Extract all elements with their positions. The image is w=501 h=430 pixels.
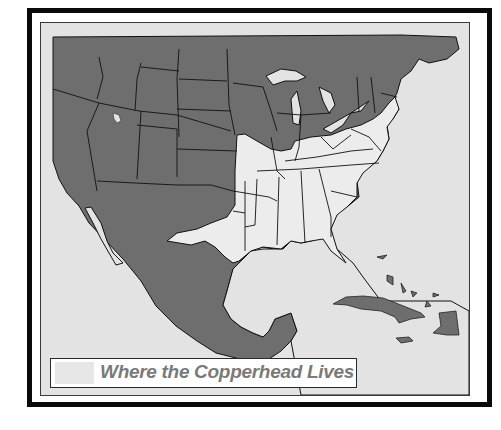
- legend: Where the Copperhead Lives: [50, 358, 357, 388]
- map: Where the Copperhead Lives: [40, 22, 470, 396]
- legend-swatch-copperhead-range: [55, 362, 94, 384]
- map-graphic: [41, 23, 469, 395]
- legend-label: Where the Copperhead Lives: [100, 361, 354, 383]
